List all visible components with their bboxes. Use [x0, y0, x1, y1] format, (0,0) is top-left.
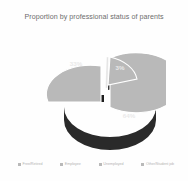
slice-label-employee: 64% — [123, 112, 136, 119]
legend-item-employee[interactable]: Employee — [60, 162, 81, 167]
slice-depth-employee — [64, 107, 156, 150]
legend-swatch-icon — [18, 163, 21, 166]
legend-swatch-icon — [141, 163, 144, 166]
legend-item-other-student-job[interactable]: Other/Student job — [141, 162, 174, 167]
chart-title: Proportion by professional status of par… — [0, 13, 188, 22]
slice-free-retired[interactable] — [46, 65, 101, 102]
legend-item-free-retired[interactable]: Free/Retired — [18, 162, 42, 167]
legend-label: Free/Retired — [23, 162, 43, 167]
legend-item-unemployed[interactable]: Unemployed — [99, 162, 124, 167]
slice-label-unemployed: 3% — [116, 64, 125, 71]
pie-plot-area: 33% 64% 3% — [44, 36, 166, 151]
legend-label: Unemployed — [103, 162, 123, 167]
legend-label: Employee — [65, 162, 81, 167]
legend-swatch-icon — [99, 163, 102, 166]
pie-chart-figure: Proportion by professional status of par… — [0, 0, 188, 181]
legend-label: Other/Student job — [146, 162, 174, 167]
pie-svg: 33% 64% 3% — [44, 36, 166, 151]
legend-swatch-icon — [60, 163, 63, 166]
chart-legend: Free/Retired Employee Unemployed Other/S… — [14, 158, 178, 170]
slice-label-free-retired: 33% — [70, 60, 83, 67]
